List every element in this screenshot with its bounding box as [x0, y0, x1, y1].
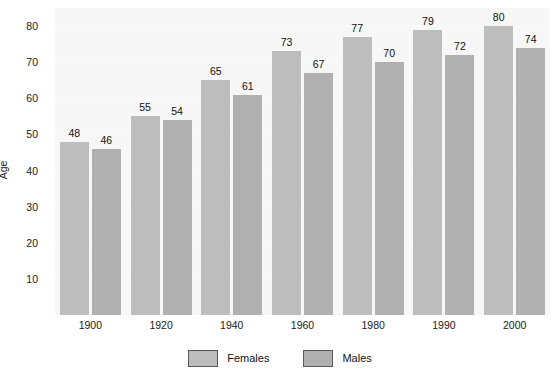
- legend-swatch-icon: [188, 350, 218, 367]
- legend-swatch-icon: [303, 350, 333, 367]
- bar-value-label: 80: [493, 12, 505, 23]
- bar-value-label: 54: [171, 106, 183, 117]
- bar-females-1990: [413, 30, 442, 315]
- bar-value-label: 48: [69, 128, 81, 139]
- gridline: [55, 62, 550, 63]
- y-tick-label: 20: [26, 238, 38, 249]
- y-tick-label: 40: [26, 165, 38, 176]
- plot-area: 4846555465617367777079728074: [55, 8, 550, 315]
- bar-value-label: 74: [525, 34, 537, 45]
- gridline: [55, 134, 550, 135]
- bar-females-1900: [60, 142, 89, 315]
- bar-females-1980: [343, 37, 372, 315]
- y-tick-label: 50: [26, 129, 38, 140]
- bar-value-label: 46: [101, 135, 113, 146]
- gridline: [55, 243, 550, 244]
- y-tick-label: 80: [26, 21, 38, 32]
- x-tick-label: 1990: [432, 320, 455, 331]
- legend-label: Males: [342, 353, 371, 364]
- bar-females-1940: [201, 80, 230, 315]
- y-axis-title: Age: [0, 161, 9, 180]
- x-tick-label: 1960: [291, 320, 314, 331]
- bar-females-1960: [272, 51, 301, 315]
- bar-males-1900: [92, 149, 121, 315]
- x-tick-label: 1900: [79, 320, 102, 331]
- bar-males-1960: [304, 73, 333, 315]
- gridline: [55, 26, 550, 27]
- bar-males-1920: [163, 120, 192, 315]
- y-axis: 1020304050607080: [0, 0, 50, 375]
- bar-value-label: 79: [422, 16, 434, 27]
- gridline: [55, 171, 550, 172]
- legend-item-males[interactable]: Males: [303, 350, 371, 367]
- bar-males-1980: [375, 62, 404, 315]
- bar-value-label: 61: [242, 81, 254, 92]
- bar-females-2000: [484, 26, 513, 315]
- bar-value-label: 72: [454, 41, 466, 52]
- legend-label: Females: [227, 353, 269, 364]
- bar-chart: 4846555465617367777079728074 10203040506…: [0, 0, 560, 375]
- y-tick-label: 30: [26, 201, 38, 212]
- bar-males-1940: [233, 95, 262, 315]
- bar-value-label: 55: [139, 102, 151, 113]
- bar-value-label: 70: [383, 48, 395, 59]
- y-tick-label: 60: [26, 93, 38, 104]
- bar-value-label: 65: [210, 66, 222, 77]
- gridline: [55, 207, 550, 208]
- x-tick-label: 1920: [149, 320, 172, 331]
- x-tick-label: 1940: [220, 320, 243, 331]
- bar-value-label: 67: [313, 59, 325, 70]
- bar-value-label: 73: [281, 37, 293, 48]
- y-tick-label: 10: [26, 274, 38, 285]
- bar-males-2000: [516, 48, 545, 315]
- bar-males-1990: [445, 55, 474, 315]
- bar-value-label: 77: [351, 23, 363, 34]
- chart-legend: FemalesMales: [0, 350, 560, 367]
- gridline: [55, 279, 550, 280]
- x-tick-label: 1980: [362, 320, 385, 331]
- legend-item-females[interactable]: Females: [188, 350, 269, 367]
- y-tick-label: 70: [26, 57, 38, 68]
- bar-females-1920: [131, 116, 160, 315]
- gridline: [55, 98, 550, 99]
- x-tick-label: 2000: [503, 320, 526, 331]
